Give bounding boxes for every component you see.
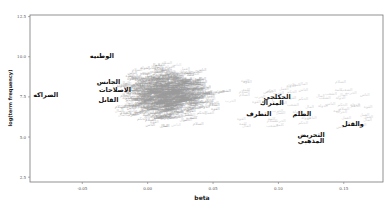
svg-text:القوة: القوة xyxy=(237,116,246,121)
x-tick-label: -0.05 xyxy=(77,186,88,191)
svg-text:الدولة: الدولة xyxy=(175,80,185,85)
svg-text:السلام: السلام xyxy=(335,79,346,84)
svg-text:الناس: الناس xyxy=(125,108,135,113)
svg-text:الشعب: الشعب xyxy=(139,90,151,95)
svg-text:القوة: القوة xyxy=(364,104,373,109)
scatter-chart: كلمةالحكمالسلامالناسالعملالدولةالشعبالقو… xyxy=(0,0,389,209)
svg-text:السلام: السلام xyxy=(193,121,204,126)
svg-text:الناس: الناس xyxy=(184,94,194,99)
svg-text:المال: المال xyxy=(305,104,314,109)
svg-text:السلام: السلام xyxy=(135,104,146,109)
svg-text:المال: المال xyxy=(115,108,124,113)
svg-text:السلام: السلام xyxy=(132,67,143,72)
annotation-word: الاصلاحات xyxy=(99,86,131,94)
y-axis-label: log(term frequency) xyxy=(7,70,14,127)
x-axis-label: beta xyxy=(194,194,209,201)
svg-text:القوة: القوة xyxy=(126,73,135,78)
annotation-word: الضراكه xyxy=(33,91,58,99)
svg-text:الحكم: الحكم xyxy=(351,103,361,108)
annotation-word: التطرف xyxy=(246,110,271,118)
x-tick-label: 0.05 xyxy=(209,186,218,191)
y-axis-ticks: 12.510.07.55.02.5 xyxy=(17,14,30,180)
annotation-word: الظلم xyxy=(293,110,312,118)
svg-text:كلمة: كلمة xyxy=(157,98,165,103)
annotation-word: المتراك xyxy=(260,99,284,107)
svg-text:الحرب: الحرب xyxy=(225,98,236,103)
y-tick-label: 10.0 xyxy=(17,54,26,59)
svg-text:الحكم: الحكم xyxy=(151,112,161,117)
svg-text:المال: المال xyxy=(192,79,201,84)
svg-text:الحكم: الحكم xyxy=(298,120,308,125)
svg-text:الحرب: الحرب xyxy=(172,114,183,119)
svg-text:الشعب: الشعب xyxy=(172,88,184,93)
annotation-word: والقتل xyxy=(342,120,364,128)
svg-text:الحرب: الحرب xyxy=(336,109,347,114)
svg-text:الناس: الناس xyxy=(299,87,309,92)
svg-text:العمل: العمل xyxy=(204,110,214,115)
svg-text:القوة: القوة xyxy=(137,82,146,87)
y-tick-label: 12.5 xyxy=(17,14,26,19)
svg-text:الحرب: الحرب xyxy=(272,108,283,113)
y-tick-label: 2.5 xyxy=(20,175,27,180)
svg-text:الشعب: الشعب xyxy=(266,123,278,128)
svg-text:السلام: السلام xyxy=(168,106,179,111)
svg-text:الناس: الناس xyxy=(183,117,193,122)
svg-text:المال: المال xyxy=(198,103,207,108)
svg-text:العمل: العمل xyxy=(160,90,170,95)
y-tick-label: 7.5 xyxy=(20,94,27,99)
svg-text:المال: المال xyxy=(363,117,372,122)
svg-text:المال: المال xyxy=(339,92,348,97)
svg-text:الشعب: الشعب xyxy=(287,102,299,107)
svg-text:الحرب: الحرب xyxy=(135,99,146,104)
svg-text:الحكم: الحكم xyxy=(298,96,308,101)
x-tick-label: 0.10 xyxy=(274,186,283,191)
svg-text:القوة: القوة xyxy=(187,108,196,113)
svg-text:الناس: الناس xyxy=(171,122,181,127)
svg-text:كلمة: كلمة xyxy=(151,69,159,74)
svg-text:القوة: القوة xyxy=(215,89,224,94)
svg-text:المال: المال xyxy=(161,123,170,128)
annotation-word: الوطنيه xyxy=(90,52,114,60)
svg-text:السلام: السلام xyxy=(145,117,156,122)
annotation-word: الجانس xyxy=(97,78,120,86)
svg-text:الناس: الناس xyxy=(197,67,207,72)
x-axis-ticks: -0.050.000.050.100.15 xyxy=(77,182,349,191)
y-tick-label: 5.0 xyxy=(20,135,27,140)
svg-text:العمل: العمل xyxy=(160,69,170,74)
svg-text:الحكم: الحكم xyxy=(157,107,167,112)
svg-text:الشعب: الشعب xyxy=(319,95,331,100)
annotation-word: القانل xyxy=(98,96,118,104)
svg-text:العمل: العمل xyxy=(173,71,183,76)
svg-text:المال: المال xyxy=(147,98,156,103)
svg-text:الحرب: الحرب xyxy=(160,82,171,87)
svg-text:الدولة: الدولة xyxy=(167,98,177,103)
svg-text:المال: المال xyxy=(242,123,251,128)
svg-text:الناس: الناس xyxy=(326,101,336,106)
svg-text:السلام: السلام xyxy=(209,102,220,107)
svg-text:السلام: السلام xyxy=(239,92,250,97)
x-tick-label: 0.15 xyxy=(339,186,348,191)
x-tick-label: 0.00 xyxy=(143,186,152,191)
svg-text:القوة: القوة xyxy=(241,78,250,83)
annotation-word: المذهبي xyxy=(298,137,325,145)
svg-text:العمل: العمل xyxy=(360,112,370,117)
svg-text:الناس: الناس xyxy=(360,92,370,97)
